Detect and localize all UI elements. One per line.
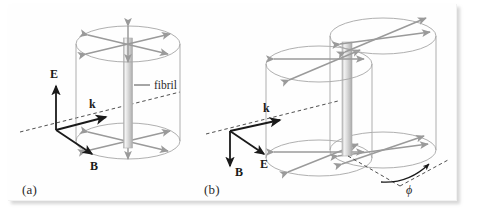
panel-b-propagation-dashed-line: [206, 101, 338, 134]
panel-a-vector-k-label: k: [89, 97, 96, 111]
panel-a-vector-E-label: E: [50, 67, 58, 81]
panel-b-vector-k-label: k: [263, 101, 270, 115]
panel-b-phi-label: ϕ: [406, 183, 412, 197]
panel-b-caption: (b): [204, 182, 220, 198]
panel-b-director-arrows-cyl2-top: [340, 18, 430, 52]
panel-b-vector-E-label: E: [260, 157, 268, 171]
panel-a-vector-B-label: B: [90, 159, 98, 173]
panel-a-vector-axes: E k B: [50, 67, 106, 173]
panel-b-vector-axes: k B E: [230, 101, 280, 179]
panel-a-director-arrows-top: [86, 26, 170, 62]
panel-a-group: fibril E k B: [20, 26, 180, 173]
figure-root: fibril E k B: [0, 0, 480, 224]
panel-a-fibril-label: fibril: [154, 79, 177, 91]
panel-b-vector-E-arrow: [230, 131, 264, 154]
panel-a-vector-k-arrow: [56, 117, 106, 130]
panel-a-vector-B-arrow: [56, 130, 92, 154]
panel-b-group: k B E ϕ: [206, 18, 448, 197]
panel-a-caption: (a): [22, 182, 37, 198]
figure-panel: fibril E k B: [8, 4, 457, 201]
panel-b-vector-B-label: B: [235, 165, 243, 179]
figure-diagram: fibril E k B: [8, 4, 456, 200]
